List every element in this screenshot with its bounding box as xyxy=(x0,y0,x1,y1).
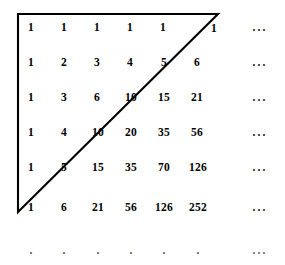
cell-r2c5: 5 xyxy=(147,56,181,68)
cell-r4c1: 1 xyxy=(14,126,48,138)
cell-r3c1: 1 xyxy=(14,91,48,103)
column-ellipsis-3: . xyxy=(81,244,115,256)
cell-r4c6: 56 xyxy=(180,126,214,138)
cell-r2c1: 1 xyxy=(14,56,48,68)
cell-r4c3: 10 xyxy=(81,126,115,138)
cell-r5c6: 126 xyxy=(181,161,215,173)
cell-r5c3: 15 xyxy=(81,161,115,173)
corner-ellipsis: ... xyxy=(243,244,277,256)
row-ellipsis-1: ... xyxy=(243,21,277,33)
column-ellipsis-2: . xyxy=(47,244,81,256)
cell-r5c4: 35 xyxy=(114,161,148,173)
cell-r6c6: 252 xyxy=(181,201,215,213)
row-ellipsis-5: ... xyxy=(243,161,277,173)
cell-r5c2: 5 xyxy=(47,161,81,173)
cell-r4c2: 4 xyxy=(47,126,81,138)
column-ellipsis-4: . xyxy=(114,244,148,256)
cell-r3c3: 6 xyxy=(80,91,114,103)
cell-r3c4: 10 xyxy=(114,91,148,103)
row-ellipsis-3: ... xyxy=(243,91,277,103)
cell-r2c4: 4 xyxy=(113,56,147,68)
cell-r4c4: 20 xyxy=(114,126,148,138)
cell-r5c5: 70 xyxy=(147,161,181,173)
cell-r6c2: 6 xyxy=(47,201,81,213)
row-ellipsis-2: ... xyxy=(243,56,277,68)
cell-r1c4: 1 xyxy=(113,21,147,33)
row-ellipsis-4: ... xyxy=(243,126,277,138)
cell-r1c1: 1 xyxy=(14,21,48,33)
cell-r3c6: 21 xyxy=(180,91,214,103)
column-ellipsis-5: . xyxy=(147,244,181,256)
number-grid: 1 1 1 1 1 1 ... 1 2 3 4 5 6 ... 1 3 6 10… xyxy=(0,0,285,265)
cell-r6c3: 21 xyxy=(81,201,115,213)
cell-r3c2: 3 xyxy=(47,91,81,103)
cell-r5c1: 1 xyxy=(14,161,48,173)
cell-r6c4: 56 xyxy=(114,201,148,213)
cell-r3c5: 15 xyxy=(147,91,181,103)
row-ellipsis-6: ... xyxy=(243,201,277,213)
cell-r1c5: 1 xyxy=(146,21,180,33)
column-ellipsis-1: . xyxy=(14,244,48,256)
cell-r4c5: 35 xyxy=(147,126,181,138)
cell-r6c5: 126 xyxy=(147,201,181,213)
cell-r2c6: 6 xyxy=(180,56,214,68)
cell-r2c3: 3 xyxy=(80,56,114,68)
cell-r1c6: 1 xyxy=(197,22,231,34)
cell-r2c2: 2 xyxy=(47,56,81,68)
cell-r1c3: 1 xyxy=(80,21,114,33)
column-ellipsis-6: . xyxy=(181,244,215,256)
binomial-coefficient-figure: 1 1 1 1 1 1 ... 1 2 3 4 5 6 ... 1 3 6 10… xyxy=(0,0,285,265)
cell-r1c2: 1 xyxy=(47,21,81,33)
cell-r6c1: 1 xyxy=(14,201,48,213)
